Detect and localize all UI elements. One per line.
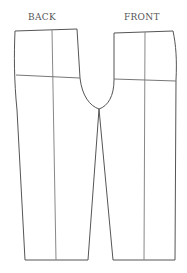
front-piece <box>99 31 176 260</box>
pattern-drawing <box>0 0 187 273</box>
back-hipline <box>16 75 80 78</box>
back-piece <box>14 29 99 260</box>
pattern-diagram: BACK FRONT <box>0 0 187 273</box>
back-grainline <box>52 30 56 260</box>
back-outline <box>14 29 99 260</box>
front-outline <box>99 31 176 260</box>
front-grainline <box>144 32 145 260</box>
